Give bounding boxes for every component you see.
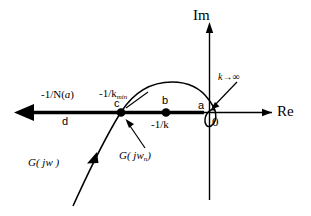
- imaginary-axis-label: Im: [193, 8, 210, 23]
- g-jwn-leader: [126, 119, 146, 148]
- point-b-dot: [162, 108, 171, 117]
- g-jw-label: G( jw ): [28, 157, 59, 168]
- real-axis-label: Re: [277, 104, 294, 119]
- neg-inverse-N-label: -1/N(a): [41, 89, 74, 100]
- figure-canvas: [0, 0, 311, 216]
- neg-inverse-k-text: -1/k: [151, 118, 169, 130]
- imaginary-axis-arrowhead: [206, 22, 213, 33]
- neg-inverse-N-suffix: ): [70, 88, 74, 100]
- g-jw-curve: [73, 82, 216, 206]
- point-b-letter: b: [162, 95, 168, 106]
- point-c-letter: c: [114, 98, 120, 109]
- neg-inverse-k-label: -1/k: [151, 119, 169, 130]
- real-axis-right-arrowhead: [262, 109, 272, 116]
- g-jwn-main: G( jw: [119, 149, 144, 161]
- origin-label: 0: [212, 115, 219, 128]
- describing-function-locus-arrowhead: [14, 104, 34, 121]
- g-jwn-close: ): [147, 149, 151, 161]
- point-a-letter: a: [198, 100, 204, 111]
- k-infinity-leader: [211, 82, 237, 110]
- k-to-infinity-label: k→∞: [218, 72, 240, 82]
- g-jwn-label: G( jwn): [119, 150, 151, 163]
- g-jwn-leader-arrowhead: [126, 119, 135, 128]
- nyquist-describing-function-figure: Im Re 0 -1/N(a) d -1/kmin c b -1/k a G( …: [0, 0, 311, 216]
- g-jw-direction-arrowhead: [87, 152, 99, 164]
- point-c-dot: [117, 108, 126, 117]
- describing-function-locus: [14, 104, 204, 121]
- infinity-icon: ∞: [232, 71, 239, 82]
- neg-inverse-N-prefix: -1/N(: [41, 88, 65, 100]
- point-d-letter: d: [62, 116, 68, 127]
- k-infinity-leader-line: [213, 82, 237, 107]
- right-arrow-icon: →: [222, 71, 232, 82]
- g-jw-curve-path: [73, 82, 216, 206]
